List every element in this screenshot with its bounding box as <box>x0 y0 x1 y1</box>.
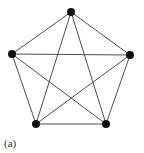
edge-v1-v3 <box>71 12 106 124</box>
edge-v2-v3 <box>106 55 130 124</box>
edge-v2-v5 <box>12 54 130 55</box>
graph-edges <box>12 12 130 124</box>
vertex-v3 <box>102 120 110 128</box>
vertex-v4 <box>32 120 40 128</box>
edge-v2-v4 <box>36 55 130 124</box>
figure-caption: (a) <box>4 137 16 150</box>
vertex-v2 <box>126 51 134 59</box>
edge-v1-v5 <box>12 12 71 54</box>
vertex-v1 <box>67 8 75 16</box>
vertex-v5 <box>8 50 16 58</box>
edge-v3-v5 <box>12 54 106 124</box>
complete-graph-diagram <box>0 0 144 153</box>
edge-v1-v4 <box>36 12 71 124</box>
edge-v1-v2 <box>71 12 130 55</box>
edge-v4-v5 <box>12 54 36 124</box>
graph-vertices <box>8 8 134 128</box>
